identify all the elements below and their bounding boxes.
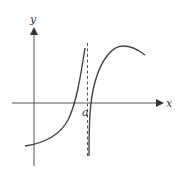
function-graph: y x a <box>0 0 182 175</box>
asymptote-label: a <box>82 106 89 119</box>
curve-right-branch <box>89 46 145 156</box>
y-axis-label: y <box>29 13 37 26</box>
x-axis-label: x <box>166 97 173 110</box>
